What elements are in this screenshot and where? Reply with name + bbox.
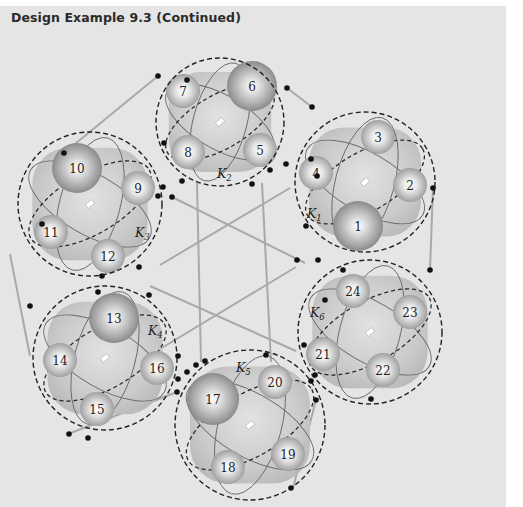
sphere-label: 23 xyxy=(402,306,417,320)
junction-node xyxy=(427,267,433,273)
junction-node xyxy=(202,358,208,364)
sphere-label: 5 xyxy=(256,144,264,158)
connection-line xyxy=(64,76,158,153)
sphere-22: 22 xyxy=(366,353,400,387)
sphere-18: 18 xyxy=(211,450,245,484)
junction-node xyxy=(174,389,180,395)
junction-node xyxy=(368,396,374,402)
junction-node xyxy=(27,303,33,309)
junction-node xyxy=(283,161,289,167)
junction-node xyxy=(294,257,300,263)
connection-line xyxy=(160,188,290,265)
cluster-k3: 9101112K3 xyxy=(16,130,165,278)
sphere-label: 8 xyxy=(184,146,192,160)
sphere-label: 12 xyxy=(100,250,115,264)
junction-node xyxy=(309,104,315,110)
connection-line xyxy=(155,267,296,352)
sphere-label: 16 xyxy=(149,362,164,376)
sphere-label: 3 xyxy=(374,131,382,145)
sphere-6: 6 xyxy=(227,61,277,111)
cluster-k6: 21222324K6 xyxy=(296,258,445,406)
junction-node xyxy=(312,372,318,378)
junction-node xyxy=(160,184,166,190)
sphere-4: 4 xyxy=(299,156,333,190)
junction-node xyxy=(39,221,45,227)
clusters: 1234K15678K29101112K313141516K417181920K… xyxy=(16,56,445,502)
junction-node xyxy=(267,167,273,173)
sphere-label: 2 xyxy=(406,179,414,193)
sphere-label: 21 xyxy=(315,348,330,362)
sphere-9: 9 xyxy=(121,171,155,205)
sphere-1: 1 xyxy=(333,201,383,251)
junction-node xyxy=(313,397,319,403)
sphere-label: 19 xyxy=(280,448,295,462)
junction-node xyxy=(161,140,167,146)
sphere-label: 24 xyxy=(345,285,361,299)
sphere-label: 7 xyxy=(179,85,187,99)
cluster-label: K5 xyxy=(235,360,251,377)
sphere-15: 15 xyxy=(80,392,114,426)
junction-node xyxy=(169,194,175,200)
cluster-k2: 5678K2 xyxy=(154,56,286,187)
junction-node xyxy=(263,352,269,358)
junction-node xyxy=(340,267,346,273)
connection-line xyxy=(172,197,305,263)
junction-node xyxy=(284,85,290,91)
sphere-7: 7 xyxy=(166,74,200,108)
sphere-label: 18 xyxy=(220,461,235,475)
cluster-k1: 1234K1 xyxy=(293,110,438,254)
connection-line xyxy=(262,183,271,362)
junction-node xyxy=(99,273,105,279)
junction-node xyxy=(288,485,294,491)
junction-node xyxy=(85,435,91,441)
cluster-k4: 13141516K4 xyxy=(31,284,180,432)
junction-node xyxy=(308,378,314,384)
sphere-8: 8 xyxy=(171,135,205,169)
sphere-14: 14 xyxy=(43,343,77,377)
junction-node xyxy=(146,292,152,298)
sphere-16: 16 xyxy=(140,351,174,385)
sphere-label: 14 xyxy=(52,354,68,368)
junction-node xyxy=(95,289,101,295)
sphere-20: 20 xyxy=(258,365,292,399)
sphere-label: 22 xyxy=(375,364,390,378)
junction-node xyxy=(155,193,161,199)
sphere-label: 15 xyxy=(89,403,104,417)
sphere-label: 17 xyxy=(205,393,220,407)
junction-node xyxy=(175,376,181,382)
junction-node xyxy=(301,342,307,348)
junction-node xyxy=(175,353,181,359)
sphere-21: 21 xyxy=(306,337,340,371)
sphere-5: 5 xyxy=(243,133,277,167)
sphere-label: 9 xyxy=(134,182,142,196)
junction-node xyxy=(314,173,320,179)
junction-node xyxy=(136,264,142,270)
sphere-11: 11 xyxy=(34,215,68,249)
sphere-label: 20 xyxy=(267,376,282,390)
junction-node xyxy=(155,73,161,79)
sphere-label: 6 xyxy=(248,80,256,94)
junction-node xyxy=(66,431,72,437)
sphere-19: 19 xyxy=(271,437,305,471)
junction-node xyxy=(179,178,185,184)
junction-node xyxy=(308,156,314,162)
sphere-17: 17 xyxy=(187,373,239,425)
junction-node xyxy=(184,369,190,375)
junction-node xyxy=(315,257,321,263)
junction-node xyxy=(430,185,436,191)
sphere-23: 23 xyxy=(393,295,427,329)
sphere-label: 13 xyxy=(106,312,121,326)
sphere-24: 24 xyxy=(336,274,370,308)
sphere-label: 11 xyxy=(43,226,58,240)
junction-node xyxy=(303,223,309,229)
sphere-label: 1 xyxy=(354,220,362,234)
junction-node xyxy=(61,150,67,156)
connection-line xyxy=(10,254,30,356)
sphere-label: 10 xyxy=(69,162,84,176)
junction-node xyxy=(193,362,199,368)
junction-node xyxy=(249,181,255,187)
sphere-3: 3 xyxy=(361,120,395,154)
junction-node xyxy=(184,77,190,83)
cluster-k5: 17181920K5 xyxy=(173,348,328,502)
junction-node xyxy=(322,297,328,303)
